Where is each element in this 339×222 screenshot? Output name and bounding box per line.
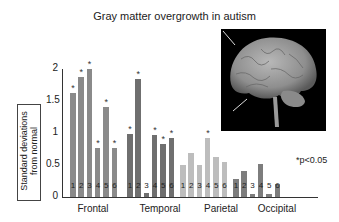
bar-number-label: 1 [69,181,77,190]
bar [144,193,150,197]
bar-number-label: 6 [168,181,176,190]
bar-number-label: 2 [240,181,248,190]
bar [266,194,272,197]
bar-number-label: 3 [196,181,204,190]
y-tick: 1.5 [46,94,58,105]
significance-star: * [133,69,143,79]
significance-star: * [203,128,213,138]
significance-star: * [85,59,95,69]
x-axis [62,197,318,198]
bar [250,194,256,197]
y-axis-label-box: Standard deviations from normal [17,104,41,201]
significance-star: * [101,97,111,107]
y-tick: 0.5 [46,158,58,169]
brain-illustration-icon [221,29,326,131]
bar [188,153,194,197]
bar-number-label: 4 [257,181,265,190]
y-tick: 2 [46,62,58,73]
bar-number-label: 2 [187,181,195,190]
brain-image [221,29,326,131]
significance-star: * [167,128,177,138]
bar-number-label: 3 [143,181,151,190]
bar-number-label: 5 [265,181,273,190]
bar-number-label: 5 [159,181,167,190]
significance-star: * [68,83,78,93]
y-axis-label: Standard deviations from normal [19,103,39,199]
chart-title: Gray matter overgrowth in autism [0,10,339,22]
bar [213,157,219,197]
bar-number-label: 4 [204,181,212,190]
group-label-occipital: Occipital [247,203,307,214]
bar [78,77,84,197]
bar [87,69,93,197]
y-tick: 0 [46,190,58,201]
y-tick: 1 [46,126,58,137]
bar-number-label: 2 [77,181,85,190]
group-label-parietal: Parietal [191,203,251,214]
significance-star: * [110,138,120,148]
bar-number-label: 4 [94,181,102,190]
bar-number-label: 1 [232,181,240,190]
significance-star: * [93,138,103,148]
group-label-temporal: Temporal [130,203,190,214]
y-axis [62,69,63,198]
group-label-frontal: Frontal [63,203,123,214]
significance-note: *p<0.05 [296,155,327,165]
bar-number-label: 6 [221,181,229,190]
bar [135,79,141,197]
bar-number-label: 2 [134,181,142,190]
bar-number-label: 4 [151,181,159,190]
bar-number-label: 3 [249,181,257,190]
bar-number-label: 3 [86,181,94,190]
bar-number-label: 5 [102,181,110,190]
bar-number-label: 5 [212,181,220,190]
significance-star: * [125,124,135,134]
bar-number-label: 1 [126,181,134,190]
bar-number-label: 6 [274,181,282,190]
bar-number-label: 6 [111,181,119,190]
bar [222,162,228,197]
bar-number-label: 1 [179,181,187,190]
